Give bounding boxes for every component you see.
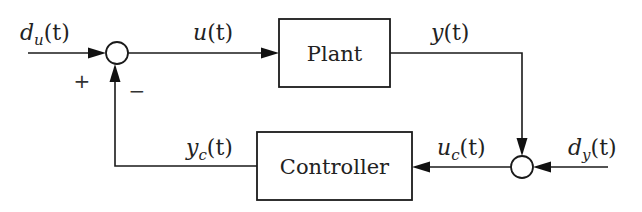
signal-label-u: u(t) — [193, 20, 233, 45]
arrowhead-icon — [412, 162, 430, 173]
du-input-arrow — [28, 48, 106, 59]
signal-label-dy: dy(t) — [568, 135, 617, 164]
signal-label-yc: yc(t) — [185, 135, 233, 164]
plant-block: Plant — [279, 19, 390, 87]
arrowhead-icon — [110, 64, 121, 82]
signal-label-y: y(t) — [430, 20, 469, 45]
minus-sign: − — [129, 79, 146, 103]
u-signal-arrow — [128, 48, 279, 59]
summing-junction-output — [511, 156, 533, 178]
controller-block: Controller — [257, 132, 412, 200]
signal-label-du: du(t) — [20, 20, 70, 49]
arrowhead-icon — [533, 162, 551, 173]
arrowhead-icon — [261, 48, 279, 59]
plus-sign: + — [74, 69, 91, 93]
plant-label: Plant — [307, 42, 363, 66]
controller-label: Controller — [280, 155, 390, 179]
summing-junction-input — [106, 42, 128, 64]
arrowhead-icon — [88, 48, 106, 59]
signal-label-uc: uc(t) — [437, 135, 486, 164]
feedback-block-diagram: Plant Controller + − du(t) u(t) y(t) uc — [0, 0, 642, 212]
dy-input-arrow — [533, 162, 608, 173]
uc-signal-arrow — [412, 162, 511, 173]
arrowhead-icon — [517, 138, 528, 156]
